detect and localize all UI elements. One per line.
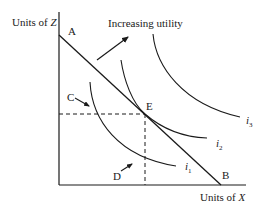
indifference-curve-diagram: Units of Z Units of X Increasing utility… bbox=[0, 0, 266, 210]
curve-label-i1: i1 bbox=[185, 160, 192, 175]
point-label-e: E bbox=[146, 100, 153, 112]
curve-label-i3: i3 bbox=[246, 114, 253, 129]
point-c-arrow-icon bbox=[75, 98, 89, 106]
indifference-curve-i2 bbox=[121, 60, 207, 138]
increasing-utility-label: Increasing utility bbox=[108, 17, 183, 29]
point-label-c: C bbox=[67, 91, 74, 103]
indifference-curve-i1 bbox=[90, 82, 176, 166]
budget-line-label-b: B bbox=[222, 169, 229, 181]
indifference-curve-i3 bbox=[153, 34, 240, 117]
budget-line bbox=[59, 35, 221, 185]
x-axis-label: Units of X bbox=[200, 191, 247, 203]
y-axis-label: Units of Z bbox=[12, 16, 58, 28]
increasing-utility-arrow-icon bbox=[97, 37, 128, 60]
point-d-arrow-icon bbox=[121, 164, 132, 171]
curve-label-i2: i2 bbox=[216, 137, 223, 152]
point-label-d: D bbox=[113, 170, 121, 182]
budget-line-label-a: A bbox=[68, 25, 76, 37]
